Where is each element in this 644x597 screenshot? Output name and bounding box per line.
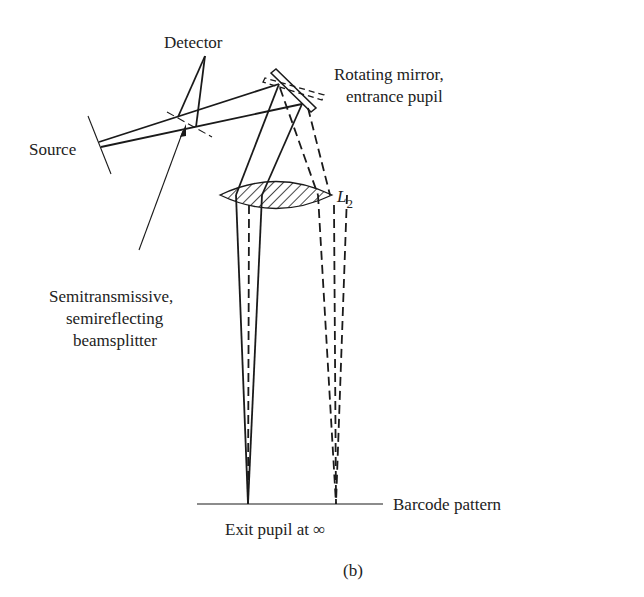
beamsplitter-label-line2: semireflecting xyxy=(66,309,164,328)
beamsplitter-pointer xyxy=(139,124,186,250)
focused-rays-left xyxy=(236,195,262,504)
source-label: Source xyxy=(29,140,76,159)
detector-lines xyxy=(178,56,205,127)
figure-caption: (b) xyxy=(343,561,363,580)
lens-label: L2 xyxy=(336,187,353,211)
reflected-rays-solid xyxy=(236,84,302,195)
beamsplitter-label-line3: beamsplitter xyxy=(73,331,157,350)
mirror-label-line2: entrance pupil xyxy=(346,87,443,106)
exit-pupil-label: Exit pupil at ∞ xyxy=(225,520,325,539)
detector-label: Detector xyxy=(164,33,223,52)
lens-label-subscript: 2 xyxy=(346,196,353,211)
optical-diagram: Detector Source Rotating mirror, entranc… xyxy=(0,0,644,597)
focused-rays-right xyxy=(318,195,347,504)
lens-label-letter: L xyxy=(336,187,346,206)
beamsplitter-label-line1: Semitransmissive, xyxy=(49,287,173,306)
mirror-label-line1: Rotating mirror, xyxy=(334,65,444,84)
barcode-label: Barcode pattern xyxy=(393,495,502,514)
